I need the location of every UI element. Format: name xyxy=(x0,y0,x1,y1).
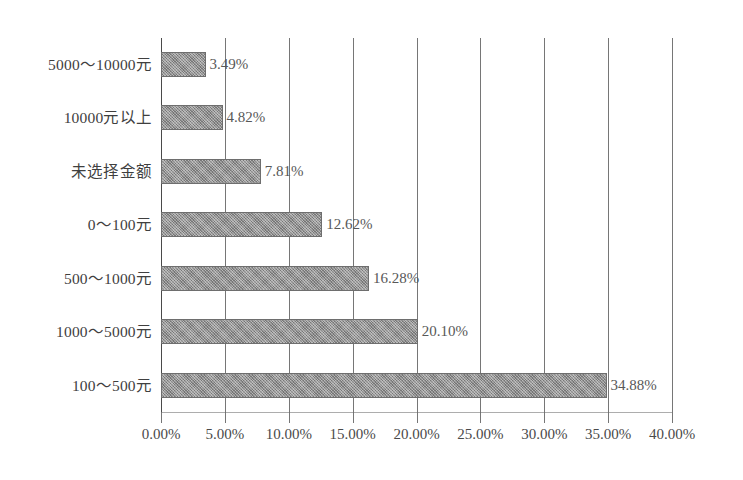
gridline xyxy=(672,38,673,412)
bar-row: 3.49% xyxy=(161,38,672,91)
bar xyxy=(161,52,206,77)
x-axis-tick-label: 35.00% xyxy=(585,424,631,444)
x-axis-tick xyxy=(225,412,226,423)
bar xyxy=(161,212,322,237)
plot-area: 3.49%4.82%7.81%12.62%16.28%20.10%34.88% xyxy=(161,38,672,412)
bar-value-label: 20.10% xyxy=(418,319,468,344)
bar-value-label: 4.82% xyxy=(223,105,266,130)
x-axis-tick xyxy=(289,412,290,423)
bar xyxy=(161,319,418,344)
x-axis-tick-label: 40.00% xyxy=(649,424,695,444)
bar-row: 20.10% xyxy=(161,305,672,358)
bar-value-label: 3.49% xyxy=(206,52,249,77)
x-axis-tick-label: 10.00% xyxy=(266,424,312,444)
x-axis-tick-label: 5.00% xyxy=(206,424,245,444)
bar xyxy=(161,105,223,130)
bar-row: 16.28% xyxy=(161,252,672,305)
y-axis-category-label: 0～100元 xyxy=(0,198,152,251)
bar xyxy=(161,373,607,398)
x-axis-tick xyxy=(161,412,162,423)
x-axis-tick xyxy=(544,412,545,423)
x-axis-tick-label: 0.00% xyxy=(142,424,181,444)
bar-row: 4.82% xyxy=(161,91,672,144)
x-axis-tick xyxy=(480,412,481,423)
y-axis-category-label: 5000～10000元 xyxy=(0,38,152,91)
x-axis-tick xyxy=(353,412,354,423)
x-axis-tick-label: 15.00% xyxy=(330,424,376,444)
y-axis-category-label: 1000～5000元 xyxy=(0,305,152,358)
x-axis-tick-label: 30.00% xyxy=(521,424,567,444)
x-axis-tick xyxy=(417,412,418,423)
y-axis-category-label: 未选择金额 xyxy=(0,145,152,198)
y-axis-category-label: 100～500元 xyxy=(0,359,152,412)
bar-value-label: 16.28% xyxy=(369,266,419,291)
x-axis-tick-label: 20.00% xyxy=(393,424,439,444)
bar-row: 12.62% xyxy=(161,198,672,251)
y-axis-category-label: 10000元以上 xyxy=(0,91,152,144)
x-axis-tick xyxy=(608,412,609,423)
bar-value-label: 12.62% xyxy=(322,212,372,237)
x-axis-baseline xyxy=(161,412,672,413)
x-axis-tick-label: 25.00% xyxy=(457,424,503,444)
bar-row: 7.81% xyxy=(161,145,672,198)
bar-value-label: 7.81% xyxy=(261,159,304,184)
x-axis-tick xyxy=(672,412,673,423)
y-axis-category-labels: 5000～10000元10000元以上未选择金额0～100元500～1000元1… xyxy=(0,38,152,412)
bar-value-label: 34.88% xyxy=(607,373,657,398)
bar xyxy=(161,266,369,291)
bar xyxy=(161,159,261,184)
y-axis-category-label: 500～1000元 xyxy=(0,252,152,305)
bar-row: 34.88% xyxy=(161,359,672,412)
x-axis-tick-labels: 0.00%5.00%10.00%15.00%20.00%25.00%30.00%… xyxy=(161,424,672,448)
bar-chart: 5000～10000元10000元以上未选择金额0～100元500～1000元1… xyxy=(0,0,743,480)
